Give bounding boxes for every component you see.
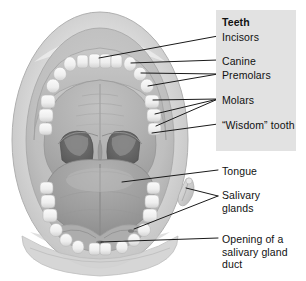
tooth-premolar [128, 234, 140, 247]
tooth-wisdom [40, 182, 53, 194]
label-molars: Molars [222, 94, 254, 107]
tooth-molar [145, 195, 159, 208]
label-salivary-glands: Salivary glands [222, 189, 292, 214]
tooth-incisor [111, 55, 122, 68]
label-canine: Canine [222, 55, 256, 68]
label-wisdom-tooth: “Wisdom” tooth [222, 119, 296, 132]
tooth-premolar [54, 67, 67, 81]
salivary-duct-opening-lateral [128, 229, 134, 233]
tooth-incisor [77, 55, 88, 68]
label-premolars: Premolars [222, 69, 271, 82]
tooth-wisdom [39, 123, 52, 135]
tooth-canine [116, 240, 128, 253]
label-teeth-heading: Teeth [222, 16, 250, 29]
tooth-incisor [89, 243, 100, 255]
label-incisors: Incisors [222, 31, 259, 44]
oral-cavity-figure: Teeth Incisors Canine Premolars Molars “… [0, 0, 306, 281]
tooth-molar [143, 209, 157, 222]
tooth-canine [124, 57, 136, 71]
tooth-molar [39, 109, 53, 122]
tooth-premolar [46, 79, 59, 93]
tooth-wisdom [147, 182, 160, 194]
tooth-incisor [100, 243, 111, 255]
tooth-incisor [89, 54, 100, 68]
tooth-molar [41, 195, 55, 208]
tooth-canine [72, 240, 84, 253]
tooth-premolar [60, 234, 72, 247]
tooth-molar [41, 95, 55, 108]
tooth-premolar [50, 223, 63, 236]
tooth-molar [43, 209, 57, 222]
tooth-molar [147, 109, 161, 122]
tooth-premolar [134, 67, 147, 81]
label-tongue: Tongue [222, 165, 257, 178]
tooth-canine [64, 57, 76, 71]
tooth-premolar [140, 79, 153, 93]
label-salivary-duct-opening: Opening of a salivary gland duct [222, 233, 306, 271]
tooth-molar [145, 95, 159, 108]
